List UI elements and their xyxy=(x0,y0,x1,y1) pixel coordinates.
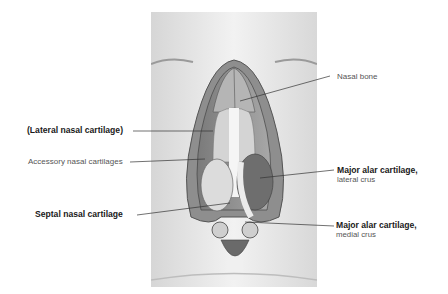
label-major-alar-medial-sub: medial crus xyxy=(336,231,417,240)
label-major-alar-medial: Major alar cartilage, medial crus xyxy=(336,221,417,240)
label-septal-nasal-cartilage-text: Septal nasal cartilage xyxy=(35,209,123,219)
label-major-alar-lateral-sub: lateral crus xyxy=(337,176,418,185)
label-accessory-nasal-cartilages: Accessory nasal cartilages xyxy=(28,157,123,166)
leader-nasal-bone xyxy=(240,76,330,101)
label-nasal-bone: Nasal bone xyxy=(337,72,377,81)
label-major-alar-lateral-title: Major alar cartilage, xyxy=(337,165,418,175)
leader-major-alar-medial xyxy=(245,222,334,226)
leader-lines xyxy=(0,0,448,294)
leader-septal-nasal-cartilage xyxy=(137,203,230,215)
label-lateral-nasal-cartilage-text: (Lateral nasal cartilage) xyxy=(27,125,123,135)
label-accessory-nasal-cartilages-text: Accessory nasal cartilages xyxy=(28,157,123,166)
label-septal-nasal-cartilage: Septal nasal cartilage xyxy=(35,210,123,220)
label-major-alar-medial-title: Major alar cartilage, xyxy=(336,220,417,230)
label-lateral-nasal-cartilage: (Lateral nasal cartilage) xyxy=(27,126,123,136)
leader-major-alar-lateral xyxy=(260,170,334,178)
label-nasal-bone-text: Nasal bone xyxy=(337,72,377,81)
leader-accessory-nasal-cartilages xyxy=(130,159,205,162)
label-major-alar-lateral: Major alar cartilage, lateral crus xyxy=(337,166,418,185)
